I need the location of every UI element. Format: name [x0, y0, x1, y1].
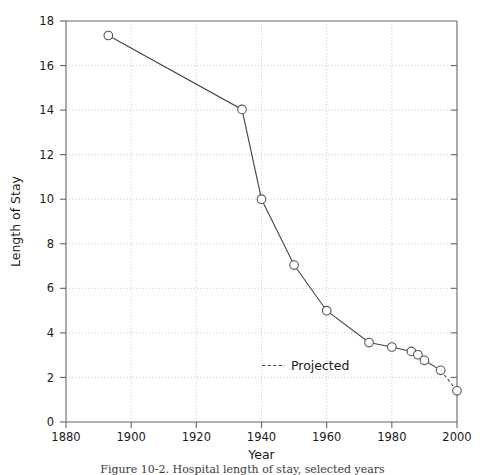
y-tick-label: 14	[39, 103, 54, 117]
y-tick-label: 4	[47, 326, 54, 340]
y-axis-title: Length of Stay	[8, 175, 23, 267]
x-tick-label: 2000	[442, 430, 471, 444]
x-tick-label: 1900	[117, 430, 146, 444]
y-tick-label: 10	[39, 192, 54, 206]
x-tick-label: 1940	[247, 430, 276, 444]
y-tick-label: 16	[39, 59, 54, 73]
data-point	[104, 31, 113, 40]
legend-projected-label: Projected	[291, 358, 349, 373]
y-tick-label: 0	[47, 415, 54, 429]
plot-area-background	[66, 21, 457, 422]
y-tick-label: 6	[47, 281, 54, 295]
data-point	[290, 261, 299, 270]
x-axis-tick-labels: 1880 1900 1920 1940 1960 1980 2000	[51, 430, 471, 444]
data-point	[388, 343, 397, 352]
x-tick-label: 1980	[377, 430, 406, 444]
data-point	[257, 195, 266, 204]
x-tick-label: 1920	[182, 430, 211, 444]
length-of-stay-line-chart: 0 2 4 6 8 10 12 14 16 18 1880 1900 1920 …	[0, 0, 485, 475]
y-tick-label: 8	[47, 237, 54, 251]
y-tick-label: 18	[39, 14, 54, 28]
y-tick-label: 2	[47, 371, 54, 385]
figure-caption: Figure 10-2. Hospital length of stay, se…	[0, 463, 485, 475]
x-tick-label: 1880	[51, 430, 80, 444]
data-point	[365, 338, 374, 347]
data-point	[420, 356, 429, 365]
data-point	[322, 306, 331, 315]
data-point	[453, 387, 462, 396]
x-axis-title: Year	[247, 447, 275, 462]
y-tick-label: 12	[39, 148, 54, 162]
figure-container: 0 2 4 6 8 10 12 14 16 18 1880 1900 1920 …	[0, 0, 485, 475]
data-point	[436, 366, 445, 375]
y-axis-ticks	[60, 21, 66, 422]
y-axis-tick-labels: 0 2 4 6 8 10 12 14 16 18	[39, 14, 54, 429]
x-axis-ticks	[66, 422, 457, 428]
x-tick-label: 1960	[312, 430, 341, 444]
data-point	[238, 105, 247, 114]
